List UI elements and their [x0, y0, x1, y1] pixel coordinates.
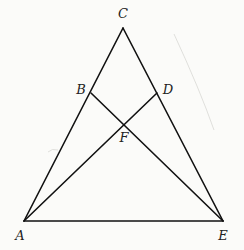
- background-stroke: [48, 149, 58, 152]
- segment-be: [91, 93, 223, 221]
- label-point-b: B: [75, 82, 86, 97]
- label-point-d: D: [162, 82, 174, 97]
- background-stroke: [174, 34, 214, 130]
- label-point-f: F: [118, 130, 129, 145]
- segment-ad: [24, 93, 157, 221]
- segment-ac: [24, 28, 123, 221]
- label-point-a: A: [14, 228, 24, 243]
- segment-ce: [123, 28, 223, 221]
- segments-group: [24, 28, 223, 221]
- label-point-e: E: [217, 228, 228, 243]
- labels-group: C B D F A E: [14, 6, 228, 243]
- label-point-c: C: [118, 6, 128, 21]
- geometry-figure: C B D F A E: [0, 0, 244, 250]
